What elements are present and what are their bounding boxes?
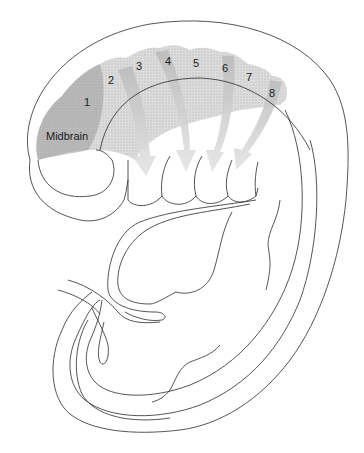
gut-tube-upper [68, 280, 160, 323]
gut-tube-lower [58, 290, 100, 314]
somite-line-lower [152, 345, 220, 402]
label-segment-6: 6 [222, 63, 228, 74]
head-outer-curve [29, 160, 128, 221]
label-segment-4: 4 [165, 56, 171, 67]
label-segment-5: 5 [193, 58, 199, 69]
heart-inner-outline [118, 204, 250, 304]
second-embryo-outline [70, 140, 317, 416]
label-segment-3: 3 [136, 61, 142, 72]
arch-divider-2 [194, 156, 202, 196]
yolk-stalk [92, 308, 108, 364]
embryo-diagram: Midbrain 1 2 3 4 5 6 7 8 [0, 0, 364, 453]
arch-divider-1 [161, 156, 170, 196]
arch-divider-3 [226, 160, 232, 196]
embryo-outline-drawing [0, 0, 364, 453]
label-segment-1: 1 [84, 97, 90, 108]
tail-inner-curve [76, 320, 170, 420]
label-segment-2: 2 [108, 75, 114, 86]
label-segment-7: 7 [246, 72, 252, 83]
heart-outer-outline [108, 200, 256, 321]
label-segment-8: 8 [269, 88, 275, 99]
label-midbrain: Midbrain [46, 131, 88, 142]
somite-line-upper [266, 200, 280, 290]
